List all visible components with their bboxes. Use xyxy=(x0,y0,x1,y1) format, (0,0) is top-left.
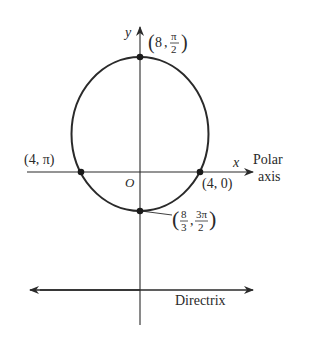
directrix-label: Directrix xyxy=(175,293,226,308)
comma: , xyxy=(164,35,168,50)
y-axis-label: y xyxy=(123,25,132,40)
label-left-point: (4, π) xyxy=(24,152,55,168)
point-bottom xyxy=(137,208,144,215)
polar-ellipse-diagram: y x O Polar axis ( 8 , π 2 ) (4, π) (4, … xyxy=(0,0,311,343)
polar-axis-label-2: axis xyxy=(258,169,281,184)
polar-axis-label-1: Polar xyxy=(253,152,283,167)
bottom-r-num: 8 xyxy=(181,208,187,220)
bottom-point-leader xyxy=(141,211,172,215)
point-top xyxy=(137,54,144,61)
paren-open: ( xyxy=(172,206,179,231)
label-bottom-point: ( 8 3 , 3π 2 ) xyxy=(172,206,216,233)
origin-label: O xyxy=(125,175,135,190)
paren-close: ) xyxy=(209,206,216,231)
paren-open: ( xyxy=(148,31,155,54)
label-right-point: (4, 0) xyxy=(202,176,233,192)
label-top-point: ( 8 , π 2 ) xyxy=(148,30,188,55)
comma: , xyxy=(190,213,194,228)
top-r: 8 xyxy=(155,35,162,50)
x-axis-label: x xyxy=(232,155,240,170)
top-theta-num: π xyxy=(171,30,177,42)
bottom-r-den: 3 xyxy=(181,221,187,233)
bottom-theta-den: 2 xyxy=(198,221,204,233)
top-theta-den: 2 xyxy=(171,43,177,55)
paren-close: ) xyxy=(181,31,188,54)
point-right xyxy=(197,169,204,176)
point-left xyxy=(78,169,85,176)
bottom-theta-num: 3π xyxy=(196,208,208,220)
